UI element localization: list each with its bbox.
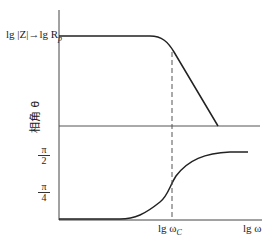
tick-pi-over-2: π2 <box>38 145 50 166</box>
magnitude-label: lg |Z|→lg Rp <box>6 28 62 43</box>
x-axis-label: lg ω <box>243 222 262 234</box>
magnitude-curve <box>59 36 218 126</box>
phase-curve <box>59 152 248 219</box>
phase-label: 相角 θ <box>26 101 42 133</box>
tick-pi-over-4: π4 <box>38 182 50 203</box>
corner-frequency-label: lg ωC <box>158 222 182 237</box>
